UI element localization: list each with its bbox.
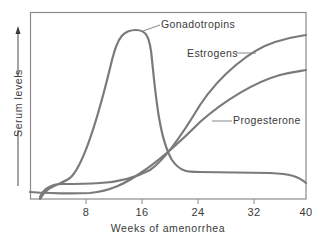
x-tick-label-40: 40	[299, 206, 312, 218]
gonadotropins-leader-line	[143, 25, 160, 31]
gonadotropins-label: Gonadotropins	[161, 18, 235, 30]
estrogens-label: Estrogens	[187, 47, 238, 59]
up-arrow-icon	[16, 26, 21, 34]
x-tick-label-16: 16	[135, 206, 148, 218]
x-axis: 8 16 24 32 40 Weeks of amenorrhea	[83, 199, 313, 234]
x-tick-label-32: 32	[247, 206, 260, 218]
x-tick-label-24: 24	[191, 206, 204, 218]
x-tick-label-8: 8	[83, 206, 90, 218]
y-axis: Serum levels	[12, 26, 24, 186]
line-chart: 8 16 24 32 40 Weeks of amenorrhea Serum …	[0, 0, 323, 242]
progesterone-curve	[30, 70, 306, 193]
x-axis-title: Weeks of amenorrhea	[111, 222, 226, 234]
y-axis-title: Serum levels	[12, 69, 24, 137]
curve-annotations: Gonadotropins Estrogens Progesterone	[143, 18, 301, 126]
progesterone-label: Progesterone	[233, 114, 301, 126]
plot-frame	[31, 13, 307, 200]
